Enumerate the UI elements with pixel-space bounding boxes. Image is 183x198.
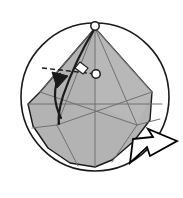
origami-diagram-canvas [0,0,183,198]
origami-diagram-figure [0,0,183,198]
fold-pivot-point [92,70,100,78]
apex-reference-point [91,22,99,30]
